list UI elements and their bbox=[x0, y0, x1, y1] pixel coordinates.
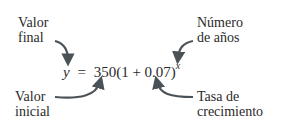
arrow-final-value-icon bbox=[55, 41, 68, 60]
arrow-years-icon bbox=[178, 41, 193, 58]
arrow-growth-rate-icon bbox=[157, 82, 193, 97]
arrow-initial-value-icon bbox=[55, 82, 100, 98]
